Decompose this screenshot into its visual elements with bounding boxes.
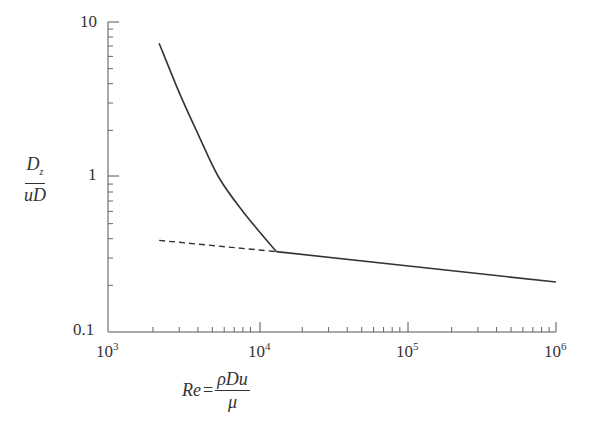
y-tick-10: 10: [80, 12, 97, 32]
minor-ticks: [108, 29, 549, 332]
chart-canvas: [0, 0, 589, 426]
y-tick-0.1: 0.1: [73, 320, 94, 340]
dashed-extrapolation-line: [159, 240, 276, 251]
x-tick-1e5: 105: [396, 340, 419, 362]
y-axis-label: Dz uD: [24, 153, 46, 206]
data-series: [159, 43, 556, 282]
x-tick-1e6: 106: [544, 340, 567, 362]
x-tick-1e3: 103: [96, 340, 119, 362]
y-tick-1: 1: [88, 165, 97, 185]
solid-curve: [159, 43, 276, 251]
x-axis-label: Re = ρDu μ: [182, 368, 250, 413]
axes: [108, 22, 556, 332]
solid-turbulent-line: [276, 252, 556, 282]
x-tick-1e4: 104: [248, 340, 271, 362]
